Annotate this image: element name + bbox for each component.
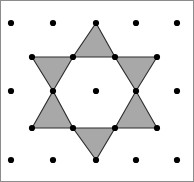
lattice-dot-3	[133, 20, 139, 26]
lattice-dot-2	[93, 20, 99, 26]
lattice-dot-10	[50, 88, 56, 94]
hexagram-lattice-figure	[0, 0, 194, 182]
triangle-lower-left	[32, 91, 73, 128]
lattice-dot-20	[93, 157, 99, 163]
lattice-dot-16	[112, 125, 118, 131]
lattice-dot-5	[29, 54, 35, 60]
lattice-dot-12	[133, 88, 139, 94]
triangle-upper-left	[32, 57, 73, 91]
lattice-dot-6	[70, 54, 76, 60]
lattice-dot-8	[154, 54, 160, 60]
lattice-dot-17	[154, 125, 160, 131]
lattice-dot-22	[174, 157, 180, 163]
triangle-top	[73, 23, 115, 57]
lattice-dot-13	[174, 88, 180, 94]
lattice-dot-19	[50, 157, 56, 163]
lattice-dot-1	[50, 20, 56, 26]
lattice-dot-7	[112, 54, 118, 60]
triangle-bottom	[73, 128, 115, 160]
lattice-dot-4	[174, 20, 180, 26]
lattice-dot-9	[8, 88, 14, 94]
lattice-dot-14	[29, 125, 35, 131]
triangle-upper-right	[115, 57, 157, 91]
lattice-dot-21	[133, 157, 139, 163]
figure-canvas	[0, 0, 194, 182]
lattice-dot-15	[70, 125, 76, 131]
lattice-dot-0	[8, 20, 14, 26]
lattice-dot-11	[93, 88, 99, 94]
lattice-dot-18	[8, 157, 14, 163]
triangle-lower-right	[115, 91, 157, 128]
